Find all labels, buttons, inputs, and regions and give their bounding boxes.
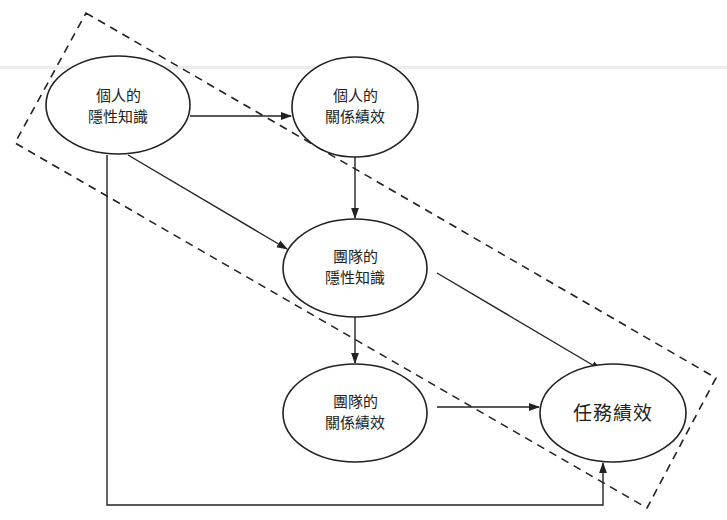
label-line-1: 個人的: [88, 86, 148, 107]
label-line-1: 個人的: [325, 86, 385, 107]
label-individual-tacit-knowledge: 個人的 隱性知識: [88, 86, 148, 128]
label-line-1: 團隊的: [325, 392, 385, 413]
label-line-2: 隱性知識: [88, 107, 148, 128]
edge-team-tacit-to-task: [437, 273, 601, 370]
label-line-2: 關係績效: [325, 107, 385, 128]
label-line-2: 關係績效: [325, 413, 385, 434]
label-task-performance: 任務績效: [573, 403, 653, 424]
label-team-tacit-knowledge: 團隊的 隱性知識: [325, 247, 385, 289]
label-line-1: 團隊的: [325, 247, 385, 268]
label-line-2: 隱性知識: [325, 268, 385, 289]
label-line-1: 任務績效: [573, 403, 653, 424]
edge-ind-tacit-to-team-tacit: [128, 155, 287, 249]
label-individual-relational-performance: 個人的 關係績效: [325, 86, 385, 128]
label-team-relational-performance: 團隊的 關係績效: [325, 392, 385, 434]
